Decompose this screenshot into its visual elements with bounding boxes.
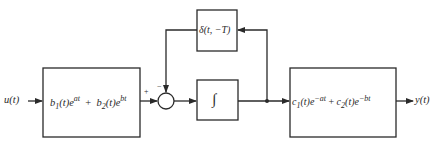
exponent: bt (120, 94, 126, 103)
plus-operator: + (328, 96, 334, 107)
exponent: at (74, 94, 80, 103)
exponent: −at (314, 94, 326, 103)
integrator-label: ∫ (212, 92, 216, 107)
delay-to-summer-arrow (166, 30, 197, 92)
plus-sign: + (144, 88, 149, 96)
feedback-to-delay-arrow (238, 30, 267, 101)
output-demodulator-label: c1(t)e−at + c2(t)e−bt (292, 95, 371, 110)
plus-operator: + (85, 97, 91, 108)
delay-label: δ(t, −T) (199, 25, 230, 35)
term-text: (t)e (300, 96, 314, 107)
input-label: u(t) (4, 95, 19, 106)
term-text: (t)e (345, 96, 359, 107)
integrator-block (197, 80, 238, 120)
exponent: −bt (359, 94, 371, 103)
term-text: (t)e (59, 97, 74, 108)
output-label: y(t) (415, 95, 430, 106)
minus-sign: − (157, 83, 162, 91)
term-text: (t)e (106, 97, 121, 108)
branch-point (265, 99, 269, 103)
block-diagram-canvas (0, 0, 436, 146)
summing-junction (158, 93, 174, 109)
input-modulator-label: b1(t)eat + b2(t)ebt (50, 95, 127, 111)
